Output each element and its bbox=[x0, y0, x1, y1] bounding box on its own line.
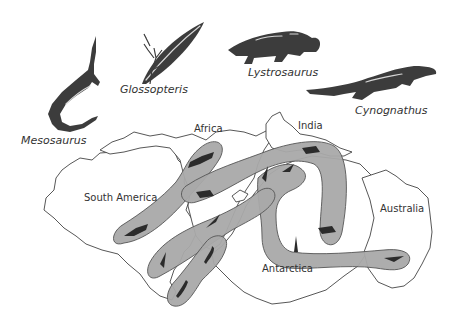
map-graphic bbox=[0, 0, 453, 317]
mesosaurus-illustration bbox=[48, 36, 100, 132]
cynognathus-illustration bbox=[306, 66, 436, 100]
glossopteris-illustration bbox=[142, 22, 204, 84]
mesosaurus-label: Mesosaurus bbox=[21, 134, 86, 147]
mesosaurus-icon bbox=[48, 36, 100, 132]
glossopteris-label: Glossopteris bbox=[120, 83, 188, 96]
lystrosaurus-label: Lystrosaurus bbox=[248, 66, 318, 79]
antarctica-label: Antarctica bbox=[262, 263, 313, 274]
cynognathus-label: Cynognathus bbox=[355, 104, 428, 117]
africa-label: Africa bbox=[194, 123, 223, 134]
gondwana-fossil-map: Mesosaurus Glossopteris Lystrosaurus Cyn… bbox=[0, 0, 453, 317]
south-america-outline bbox=[44, 138, 196, 300]
lystrosaurus-illustration bbox=[228, 31, 320, 64]
india-label: India bbox=[298, 120, 323, 131]
south-america-label: South America bbox=[84, 192, 158, 203]
australia-label: Australia bbox=[380, 203, 424, 214]
cynognathus-icon bbox=[306, 66, 436, 100]
australia-outline bbox=[362, 170, 432, 288]
